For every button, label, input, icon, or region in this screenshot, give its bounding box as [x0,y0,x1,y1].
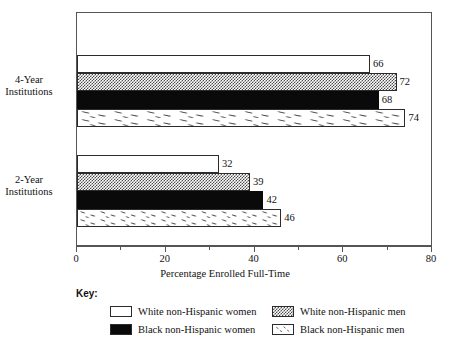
speckle-pattern-icon [78,110,404,126]
x-axis-major-tick [165,246,166,252]
bar-row: 32 [77,155,431,173]
speckle-pattern-icon [273,325,293,334]
x-axis-major-tick [254,246,255,252]
x-axis-major-tick [431,246,432,252]
bar-value-label: 68 [379,95,393,106]
bar-value-label: 42 [263,195,277,206]
legend-item-white-non-hispanic-men: White non-Hispanic men [272,306,406,317]
category-label-line2: Institutions [0,186,72,198]
legend-swatch-white-men [272,306,294,317]
chart-plot-area: 667268 74323942 46 [77,13,431,245]
bar-value-label: 46 [281,213,295,224]
bar-value-label: 74 [405,113,419,124]
category-label-line1: 2-Year [0,174,72,186]
bar-white[interactable] [77,55,370,73]
x-axis-minor-tick [298,246,299,250]
category-label-4-year: 4-Year Institutions [0,74,72,98]
bar-value-label: 39 [250,177,264,188]
x-axis-tick-label: 40 [248,253,259,265]
bar-row: 66 [77,55,431,73]
x-axis-minor-tick [209,246,210,250]
x-axis-major-tick [76,246,77,252]
bar-solid-black[interactable] [77,191,263,209]
x-axis-minor-tick [120,246,121,250]
speckle-pattern-icon [78,210,280,226]
legend-item-black-non-hispanic-men: Black non-Hispanic men [272,324,404,335]
bar-checkered[interactable] [77,73,397,91]
legend-label: Black non-Hispanic women [138,324,255,335]
chart-plot-frame: 667268 74323942 46 [76,12,432,246]
bar-row: 42 [77,191,431,209]
category-label-line2: Institutions [0,86,72,98]
x-axis-tick-label: 80 [426,253,437,265]
legend-item-white-non-hispanic-women: White non-Hispanic women [110,306,256,317]
category-label-line1: 4-Year [0,74,72,86]
legend-label: White non-Hispanic women [138,306,256,317]
bar-solid-black[interactable] [77,91,379,109]
legend-item-black-non-hispanic-women: Black non-Hispanic women [110,324,255,335]
bar-row: 74 [77,109,431,127]
category-label-2-year: 2-Year Institutions [0,174,72,198]
x-axis-minor-tick [387,246,388,250]
bar-white[interactable] [77,155,219,173]
bar-speckled[interactable] [77,109,405,127]
legend-label: White non-Hispanic men [300,306,406,317]
bar-row: 68 [77,91,431,109]
bar-checkered[interactable] [77,173,250,191]
x-axis-major-tick [342,246,343,252]
legend-swatch-black-women [110,324,132,335]
x-axis-ticks: 020406080 [76,246,432,268]
legend-title: Key: [76,288,98,299]
legend-swatch-white-women [110,306,132,317]
x-axis-tick-label: 20 [160,253,171,265]
bar-row: 72 [77,73,431,91]
legend-swatch-black-men [272,324,294,335]
x-axis-tick-label: 0 [73,253,78,265]
bar-row: 46 [77,209,431,227]
bar-value-label: 32 [219,159,233,170]
bar-value-label: 72 [397,77,411,88]
bar-speckled[interactable] [77,209,281,227]
x-axis-label: Percentage Enrolled Full-Time [0,268,450,279]
bar-row: 39 [77,173,431,191]
legend-label: Black non-Hispanic men [300,324,404,335]
bar-value-label: 66 [370,59,384,70]
x-axis-tick-label: 60 [337,253,348,265]
